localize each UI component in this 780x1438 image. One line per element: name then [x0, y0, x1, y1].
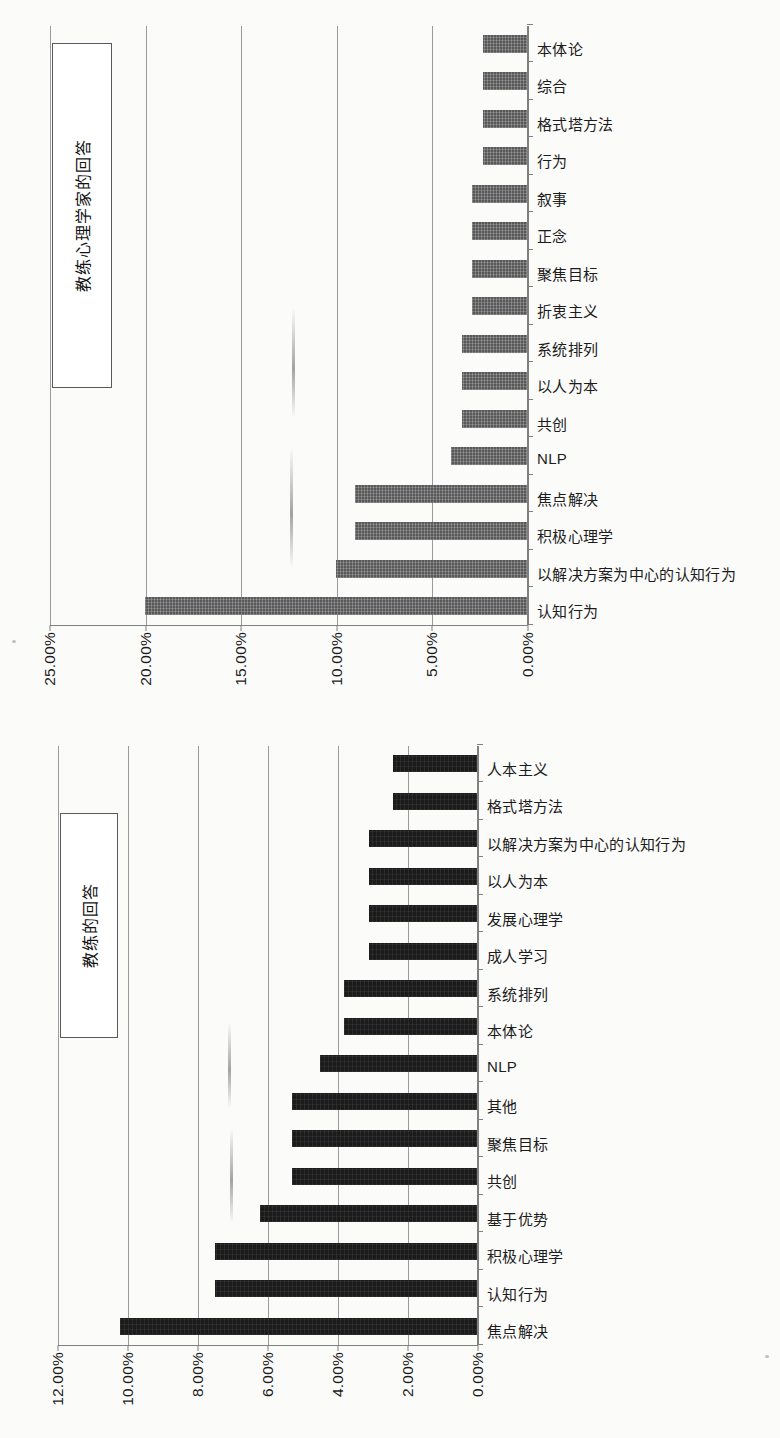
chart-title: 教练心理学家的回答: [70, 139, 94, 292]
x-tick-mark: [527, 137, 533, 138]
bar: [215, 1243, 478, 1260]
x-tick-label: 本体论: [537, 38, 583, 59]
x-tick-mark: [477, 857, 483, 858]
bar: [451, 447, 527, 465]
x-tick-mark: [477, 1344, 483, 1345]
bar: [292, 1093, 478, 1110]
y-tick-label: 10.00%: [328, 625, 346, 686]
x-tick-mark: [527, 249, 533, 250]
x-tick-label: NLP: [537, 450, 567, 467]
bar: [369, 868, 478, 885]
y-tick-label: 8.00%: [189, 1345, 207, 1397]
y-gridline: [337, 26, 338, 625]
x-tick-mark: [527, 324, 533, 325]
y-tick-label: 0.00%: [469, 1345, 487, 1397]
bar: [292, 1168, 478, 1185]
chart-panel-coaches: 0.00%2.00%4.00%6.00%8.00%10.00%12.00%焦点解…: [0, 718, 780, 1438]
y-gridline: [146, 26, 147, 625]
bar: [260, 1205, 477, 1222]
scanned-page: 0.00%5.00%10.00%15.00%20.00%25.00%认知行为以解…: [0, 0, 780, 1438]
scan-speck: [12, 640, 16, 643]
bar: [483, 110, 527, 128]
y-tick-label: 4.00%: [329, 1345, 347, 1397]
y-tick-label: 2.00%: [399, 1345, 417, 1397]
x-tick-mark: [477, 894, 483, 895]
x-tick-label: 以人为本: [487, 870, 548, 891]
chart-title-box: 教练心理学家的回答: [52, 43, 112, 388]
x-tick-mark: [477, 1044, 483, 1045]
bar: [462, 410, 527, 428]
x-tick-label: 发展心理学: [487, 908, 564, 929]
x-tick-mark: [527, 24, 533, 25]
bar: [215, 1280, 478, 1297]
chart-title-box: 教练的回答: [60, 813, 118, 1038]
bar: [355, 522, 527, 540]
x-tick-mark: [527, 362, 533, 363]
x-tick-label: 折衷主义: [537, 300, 598, 321]
bar: [120, 1318, 477, 1335]
bar: [462, 335, 527, 353]
x-tick-mark: [527, 587, 533, 588]
x-tick-mark: [477, 1307, 483, 1308]
x-tick-mark: [477, 744, 483, 745]
x-tick-label: 积极心理学: [487, 1245, 564, 1266]
chart-title: 教练的回答: [77, 883, 101, 968]
y-tick-label: 25.00%: [41, 625, 59, 686]
x-tick-label: 其他: [487, 1095, 518, 1116]
x-tick-label: 成人学习: [487, 945, 548, 966]
x-tick-label: 共创: [537, 413, 568, 434]
bar: [483, 35, 527, 53]
x-tick-label: 格式塔方法: [537, 113, 614, 134]
x-tick-mark: [477, 1194, 483, 1195]
y-gridline: [50, 26, 51, 625]
x-tick-mark: [527, 99, 533, 100]
x-tick-label: 基于优势: [487, 1208, 548, 1229]
x-tick-mark: [477, 1157, 483, 1158]
y-tick-label: 0.00%: [519, 625, 537, 677]
y-gridline: [58, 746, 59, 1345]
x-tick-mark: [527, 399, 533, 400]
x-tick-label: 格式塔方法: [487, 795, 564, 816]
bar: [393, 755, 477, 772]
x-tick-label: 以解决方案为中心的认知行为: [487, 833, 686, 854]
plot-area: 0.00%2.00%4.00%6.00%8.00%10.00%12.00%焦点解…: [58, 746, 478, 1346]
x-tick-label: 综合: [537, 75, 568, 96]
y-gridline: [528, 26, 529, 625]
chart-panel-coaching-psychologists: 0.00%5.00%10.00%15.00%20.00%25.00%认知行为以解…: [0, 0, 780, 718]
x-tick-mark: [477, 1232, 483, 1233]
y-gridline: [198, 746, 199, 1345]
bar: [472, 297, 527, 315]
x-tick-label: 行为: [537, 150, 568, 171]
y-gridline: [241, 26, 242, 625]
x-tick-label: 系统排列: [537, 338, 598, 359]
bar: [472, 260, 527, 278]
y-tick-label: 15.00%: [232, 625, 250, 686]
x-tick-mark: [477, 969, 483, 970]
x-tick-label: 焦点解决: [487, 1320, 548, 1341]
x-tick-mark: [527, 624, 533, 625]
x-tick-mark: [527, 174, 533, 175]
x-tick-mark: [527, 474, 533, 475]
plot-area: 0.00%5.00%10.00%15.00%20.00%25.00%认知行为以解…: [50, 26, 528, 626]
x-tick-mark: [527, 512, 533, 513]
x-tick-mark: [477, 1269, 483, 1270]
bar: [355, 485, 527, 503]
bar: [472, 185, 527, 203]
x-tick-label: 以解决方案为中心的认知行为: [537, 563, 736, 584]
y-tick-label: 5.00%: [423, 625, 441, 677]
y-tick-label: 6.00%: [259, 1345, 277, 1397]
x-tick-mark: [527, 212, 533, 213]
bar: [369, 943, 478, 960]
x-tick-label: 正念: [537, 225, 568, 246]
bar: [145, 597, 527, 615]
x-tick-label: 积极心理学: [537, 525, 614, 546]
bar: [336, 560, 527, 578]
x-tick-mark: [477, 1119, 483, 1120]
x-tick-label: 系统排列: [487, 983, 548, 1004]
x-tick-label: 以人为本: [537, 375, 598, 396]
x-tick-mark: [477, 819, 483, 820]
bar: [320, 1055, 478, 1072]
x-tick-label: 人本主义: [487, 758, 548, 779]
x-tick-label: 焦点解决: [537, 488, 598, 509]
bar: [369, 830, 478, 847]
